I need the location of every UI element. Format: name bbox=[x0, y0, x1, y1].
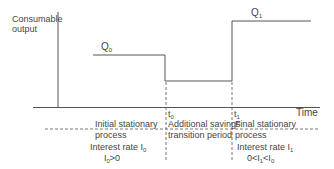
time-axis-label: Time bbox=[296, 108, 318, 118]
phase-final-subtitle: process bbox=[235, 130, 267, 140]
consumable-output-diagram: Consumable output Q0 Q1 Time t0 t1 Initi… bbox=[0, 0, 334, 169]
y-axis-label-line1: Consumable bbox=[12, 14, 63, 24]
phase-transition-subtitle: transition period bbox=[168, 130, 232, 140]
output-step-line bbox=[93, 21, 311, 81]
y-axis-label-line2: output bbox=[12, 24, 63, 34]
phase-initial-subtitle: process bbox=[95, 130, 127, 140]
phase-final-condition: 0<I1<I0 bbox=[247, 153, 274, 166]
phase-final-title: Final stationary bbox=[235, 119, 296, 129]
phase-initial-condition: I0>0 bbox=[104, 153, 120, 166]
q1-label: Q1 bbox=[251, 8, 262, 21]
phase-transition-title: Additional savings bbox=[168, 119, 241, 129]
q0-label: Q0 bbox=[101, 42, 112, 55]
y-axis-label: Consumable output bbox=[12, 14, 63, 34]
phase-initial-title: Initial stationary bbox=[95, 119, 158, 129]
